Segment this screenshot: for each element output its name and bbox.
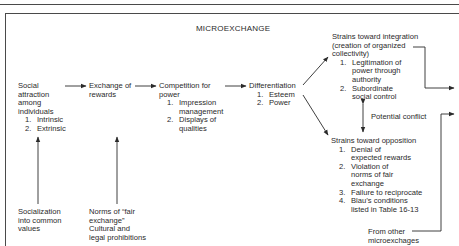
arrow-integration-off-page	[413, 47, 454, 88]
arrow-other-microexchanges	[412, 114, 454, 231]
arrow-differentiation-to-opposition	[303, 95, 328, 135]
arrow-differentiation-to-integration	[303, 57, 328, 85]
connector-arrows	[0, 0, 459, 246]
